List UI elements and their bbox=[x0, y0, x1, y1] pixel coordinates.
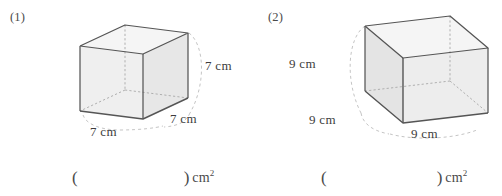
cube-2-height-label: 9 cm bbox=[289, 56, 316, 72]
height-measure-arc-1 bbox=[189, 33, 202, 113]
answer-unit-2: cm2 bbox=[445, 168, 467, 186]
cube-1-hidden-edge-right bbox=[125, 90, 188, 98]
cube-1-height-label: 7 cm bbox=[205, 58, 232, 74]
cube-1-top-face bbox=[80, 25, 188, 54]
problem-2-number: (2) bbox=[268, 10, 283, 25]
cube-2-left-face bbox=[365, 26, 403, 123]
answer-close-paren-2: ) bbox=[437, 169, 443, 186]
depth-measure-arc-2 bbox=[361, 113, 389, 134]
cube-1-width-label: 7 cm bbox=[90, 124, 117, 140]
answer-unit-1: cm2 bbox=[192, 168, 214, 186]
cube-1-hidden-edge-left bbox=[80, 90, 125, 111]
problem-1-answer-row: ( ) cm2 bbox=[72, 162, 232, 186]
answer-unit-text-2: cm bbox=[445, 170, 463, 185]
cube-2-bottom-edges bbox=[365, 91, 488, 123]
answer-open-paren-1: ( bbox=[72, 169, 78, 186]
cube-2-hidden-edge-left bbox=[365, 81, 450, 91]
problem-2: (2) 9 cm 9 cm 9 cm ( ) cm2 bbox=[251, 0, 502, 196]
answer-unit-exponent-2: 2 bbox=[463, 168, 468, 178]
height-measure-arc-2 bbox=[350, 26, 365, 113]
cube-1-depth-label: 7 cm bbox=[170, 111, 197, 127]
answer-close-paren-1: ) bbox=[184, 169, 190, 186]
cube-2-top-face bbox=[365, 16, 488, 58]
problem-1-number: (1) bbox=[10, 10, 25, 25]
cube-1-front-face bbox=[80, 46, 143, 119]
cube-2-width-label: 9 cm bbox=[411, 126, 438, 142]
cube-2-front-face bbox=[403, 48, 488, 123]
problem-1: (1) 7 cm 7 cm 7 cm ( ) cm2 bbox=[0, 0, 251, 196]
answer-open-paren-2: ( bbox=[321, 169, 327, 186]
answer-unit-exponent-1: 2 bbox=[210, 168, 215, 178]
answer-unit-text-1: cm bbox=[192, 170, 210, 185]
cube-2-depth-label: 9 cm bbox=[309, 112, 336, 128]
cube-1-top-edges bbox=[80, 25, 188, 54]
cube-1-right-face bbox=[143, 33, 188, 119]
problem-2-answer-row: ( ) cm2 bbox=[321, 162, 486, 186]
cube-2-hidden-edge-right bbox=[450, 81, 488, 113]
cube-2-top-edges bbox=[365, 16, 488, 58]
